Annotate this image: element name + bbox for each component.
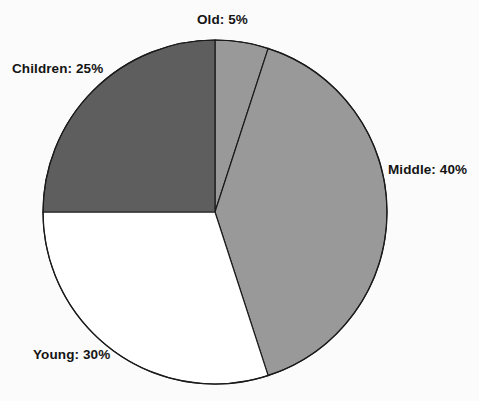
pie-slice-label-old: Old: 5% xyxy=(197,13,248,27)
pie-slice-label-young: Young: 30% xyxy=(33,348,110,362)
pie-slice-label-children: Children: 25% xyxy=(12,62,103,76)
pie-slice-label-middle: Middle: 40% xyxy=(388,163,467,177)
pie-chart-figure: Old: 5% Children: 25% Middle: 40% Young:… xyxy=(0,0,479,401)
